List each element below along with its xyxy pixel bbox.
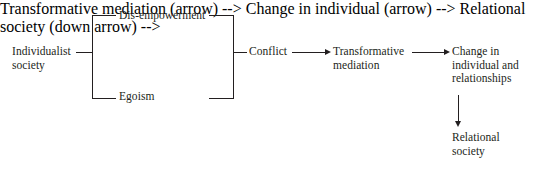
flow-diagram: Individualist society Dis-empowerment Eg… bbox=[0, 0, 537, 170]
node-change-in-individual: Change in individual and relationships bbox=[452, 45, 519, 86]
connector-bracket-to-egoism bbox=[92, 98, 116, 99]
node-transformative-mediation: Transformative mediation bbox=[333, 45, 404, 72]
node-relational-society: Relational society bbox=[452, 131, 500, 158]
connector-bracket-to-dis-empowerment bbox=[92, 15, 116, 16]
node-egoism: Egoism bbox=[119, 90, 154, 104]
arrowhead-mediation-to-change bbox=[444, 49, 450, 55]
node-individualist-society: Individualist society bbox=[12, 45, 71, 72]
arrowhead-conflict-to-mediation bbox=[325, 49, 331, 55]
connector-mediation-to-change-shaft bbox=[412, 52, 444, 53]
connector-individualist-to-bracket bbox=[76, 52, 92, 53]
connector-dis-empowerment-to-right-bracket bbox=[209, 15, 234, 16]
connector-right-bracket-to-conflict bbox=[233, 52, 247, 53]
connector-left-bracket bbox=[92, 15, 93, 99]
connector-conflict-to-mediation-shaft bbox=[292, 52, 325, 53]
arrowhead-change-to-relational bbox=[455, 121, 461, 127]
connector-egoism-to-right-bracket bbox=[209, 98, 234, 99]
connector-change-to-relational-shaft bbox=[458, 95, 459, 121]
node-conflict: Conflict bbox=[249, 45, 287, 59]
node-dis-empowerment: Dis-empowerment bbox=[119, 9, 205, 23]
connector-right-bracket bbox=[233, 15, 234, 99]
